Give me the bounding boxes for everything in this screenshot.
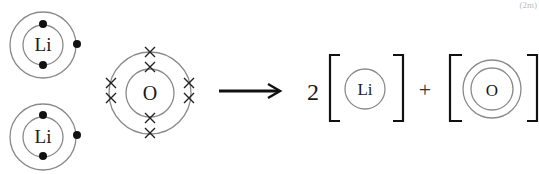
outer-electron-dot	[73, 40, 81, 48]
li-ion-symbol: Li	[357, 80, 372, 99]
li-symbol: Li	[35, 34, 52, 55]
ionic-bonding-diagram: Li Li O 2 Li +	[0, 0, 539, 174]
electron-dot	[39, 152, 47, 160]
outer-electron-dot	[73, 131, 81, 139]
electron-dot	[39, 61, 47, 69]
left-bracket	[450, 55, 462, 121]
lithium-atom-1: Li	[10, 12, 81, 78]
reaction-arrow	[219, 84, 280, 98]
o-symbol: O	[143, 82, 157, 104]
oxide-ion: O	[450, 55, 537, 121]
li-symbol: Li	[35, 126, 52, 147]
left-bracket	[330, 55, 340, 121]
right-bracket	[527, 55, 537, 121]
electron-dot	[39, 111, 47, 119]
lithium-ion: Li	[330, 55, 403, 121]
plus-sign: +	[419, 77, 431, 102]
lithium-atom-2: Li	[10, 104, 81, 170]
o-ion-symbol: O	[486, 81, 498, 100]
coefficient: 2	[307, 79, 319, 105]
right-bracket	[393, 55, 403, 121]
electron-dot	[39, 20, 47, 28]
